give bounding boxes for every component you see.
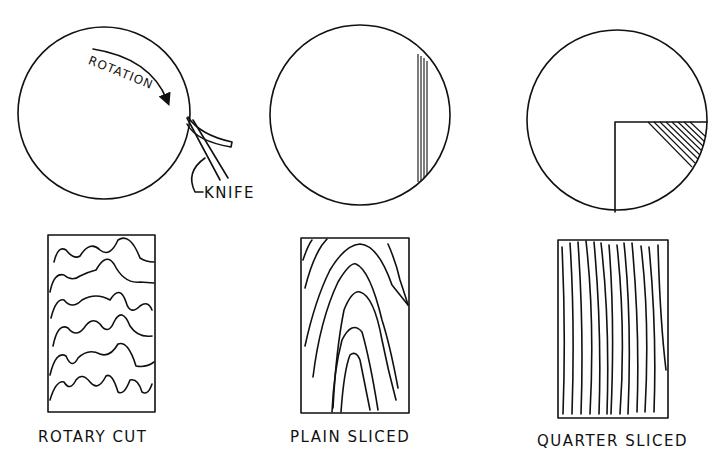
plain-sliced-grain-panel: PLAIN SLICED: [290, 238, 410, 446]
rotary-cut-caption: ROTARY CUT: [38, 428, 148, 446]
veneer-cuts-diagram: ROTATION KNIFE ROTARY CUT PL: [0, 0, 721, 466]
quarter-sliced-log: [527, 30, 707, 212]
rotation-label: ROTATION: [86, 53, 155, 92]
quarter-sliced-caption: QUARTER SLICED: [537, 432, 688, 450]
plain-sliced-log: [270, 25, 450, 205]
plain-sliced-caption: PLAIN SLICED: [290, 428, 410, 446]
rotary-cut-grain-panel: ROTARY CUT: [38, 235, 155, 446]
quarter-sliced-grain-panel: QUARTER SLICED: [537, 240, 688, 450]
knife-pointer: [192, 158, 205, 192]
rotary-cut-log: ROTATION KNIFE: [18, 27, 255, 202]
knife-label: KNIFE: [204, 184, 255, 202]
